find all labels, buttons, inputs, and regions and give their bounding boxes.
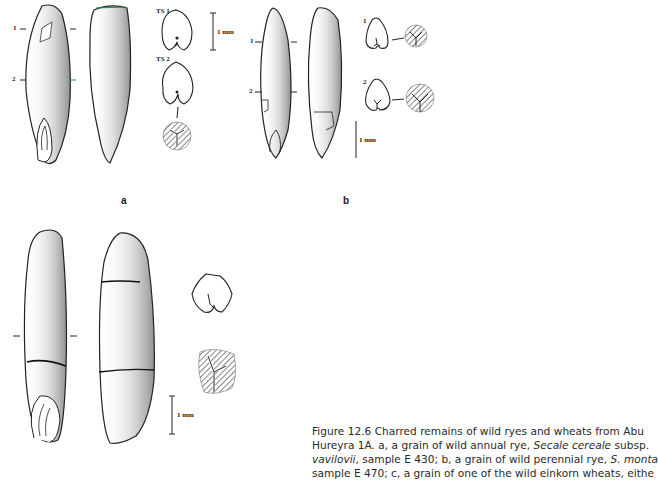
panel-c-scale-label: 1 mm: [177, 411, 194, 419]
panel-c-grain-ventral: [13, 230, 77, 442]
panel-a-ts2-section: [163, 62, 193, 150]
panel-a-ts2-label: TS 2: [156, 55, 170, 63]
panel-b-mark-1: 1: [250, 37, 254, 45]
panel-b-ts2-label: 2: [363, 78, 367, 86]
panel-b-ts1-section: [366, 18, 427, 48]
panel-b-grain-dorsal: [308, 8, 341, 158]
caption-line-4: sample E 470; c, a grain of one of the w…: [312, 466, 602, 480]
panel-c-ts-section: [169, 274, 236, 434]
panel-a-ts1-label: TS 1: [156, 7, 170, 15]
panel-a-mark-2: 2: [12, 75, 16, 83]
caption-line-3: vavilovii, sample E 430; b, a grain of w…: [312, 452, 602, 466]
panel-c-grain-dorsal: [99, 233, 154, 443]
panel-a-ts1-section: [162, 10, 216, 50]
panel-b-grain-ventral: [255, 8, 297, 158]
panel-a-mark-1: 1: [13, 24, 17, 32]
panel-b-scale-label: 1 mm: [359, 136, 376, 144]
panel-b-label: b: [343, 195, 349, 206]
panel-a-scale-label: 1 mm: [217, 28, 234, 36]
figure-caption: Figure 12.6 Charred remains of wild ryes…: [312, 424, 602, 480]
caption-line-1: Figure 12.6 Charred remains of wild ryes…: [312, 424, 602, 438]
panel-b-ts1-label: 1: [363, 17, 367, 25]
panel-b-ts2-section: [356, 79, 434, 158]
panel-b-mark-2: 2: [249, 87, 253, 95]
panel-a-label: a: [121, 195, 127, 206]
panel-a-grain-dorsal: [90, 6, 131, 163]
panel-a-grain-ventral: [20, 5, 76, 164]
caption-line-2: Hureyra 1A. a, a grain of wild annual ry…: [312, 438, 602, 452]
